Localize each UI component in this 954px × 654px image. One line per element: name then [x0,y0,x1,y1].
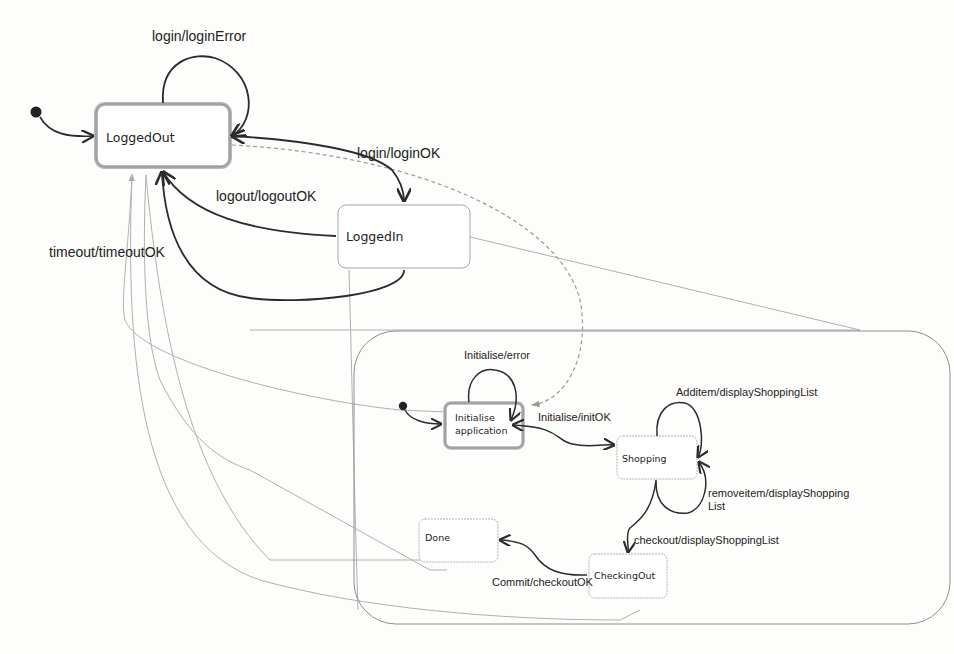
state-loggedin-label: LoggedIn [346,229,404,244]
state-shopping-label: Shopping [622,453,667,464]
label-removeitem-2: List [708,500,725,512]
label-checkout: checkout/displayShoppingList [634,534,779,546]
initial-pseudostate-sub [399,402,407,410]
state-init-label-2: application [455,425,507,436]
state-checkingout-label: CheckingOut [594,570,655,581]
state-loggedout-label: LoggedOut [106,130,175,145]
state-loggedout[interactable]: LoggedOut [96,104,230,167]
state-initialise-application[interactable]: Initialise application [445,403,523,448]
state-loggedin[interactable]: LoggedIn [338,205,470,268]
label-login-ok: login/loginOK [357,145,441,161]
state-init-label-1: Initialise [455,412,495,423]
state-shopping[interactable]: Shopping [617,436,697,479]
label-additem: Additem/displayShoppingList [676,386,817,398]
dashed-history-transition [232,145,583,405]
transition-logout [163,172,336,236]
label-init-ok: Initialise/initOK [538,411,611,423]
state-done-label: Done [425,532,450,543]
state-checkingout[interactable]: CheckingOut [589,554,667,598]
label-commit: Commit/checkoutOK [492,576,594,588]
label-removeitem-1: removeitem/displayShopping [708,487,849,499]
label-logout: logout/logoutOK [216,188,317,204]
transition-commit [500,540,587,575]
label-timeout: timeout/timeoutOK [49,244,166,260]
transition-init-ok [513,425,614,446]
initial-pseudostate-top [31,107,42,118]
state-done[interactable]: Done [419,519,498,562]
state-diagram-canvas: LoggedOut LoggedIn login/loginError logi… [0,0,954,654]
label-login-error: login/loginError [152,28,246,44]
initial-transition-top [40,117,93,136]
initial-transition-sub [405,410,441,424]
label-init-error: Initialise/error [464,349,530,361]
